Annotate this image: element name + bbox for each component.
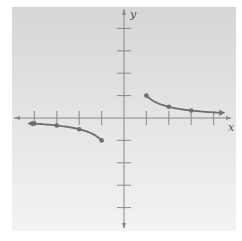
data-point [55,123,60,128]
y-axis-label: y [129,8,137,21]
data-point [189,108,194,113]
data-point [144,93,149,98]
data-point [167,105,172,110]
data-point [77,127,82,132]
data-point [32,121,37,126]
data-point [99,138,104,143]
x-axis-label: x [228,121,235,134]
hyperbola-plot: y x [0,0,242,241]
